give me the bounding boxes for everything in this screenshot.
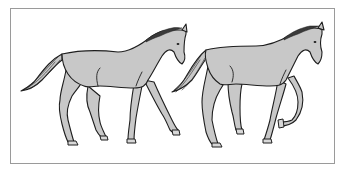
horse-right: [172, 22, 324, 147]
hoof-left-1: [68, 141, 78, 145]
fore-leg-near-left: [144, 80, 178, 134]
horse-left: [21, 24, 187, 145]
tail-left: [21, 54, 62, 91]
hoof-right-4: [278, 119, 284, 128]
hoof-left-3: [127, 139, 136, 143]
body-right: [205, 28, 322, 86]
hoof-left-2: [100, 136, 108, 140]
hind-leg-far-left: [87, 86, 106, 138]
body-left: [62, 30, 186, 88]
ear-left: [182, 24, 187, 32]
horses-illustration: [0, 0, 345, 171]
fore-leg-far-left: [128, 84, 142, 140]
eye-left: [177, 43, 180, 45]
ear-right: [318, 22, 324, 30]
eye-right: [314, 41, 317, 43]
hoof-right-1: [212, 143, 222, 147]
hoof-left-4: [172, 130, 180, 135]
hoof-right-2: [236, 129, 244, 134]
fore-leg-far-right: [264, 80, 286, 140]
hoof-right-3: [263, 139, 272, 143]
hind-leg-far-right: [228, 82, 242, 130]
